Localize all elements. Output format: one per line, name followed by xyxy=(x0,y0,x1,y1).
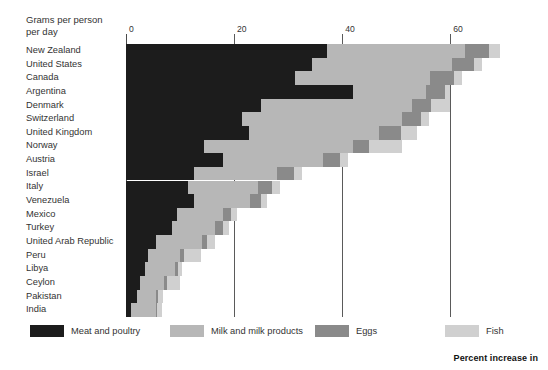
bar-segment xyxy=(194,167,278,181)
bar-row xyxy=(126,249,526,263)
bar-segment xyxy=(445,85,450,99)
bar-segment xyxy=(126,112,242,126)
legend-item-eggs[interactable]: Eggs xyxy=(315,325,377,337)
bar-segment xyxy=(261,194,266,208)
bar-row xyxy=(126,262,526,276)
bar-segment xyxy=(178,262,182,276)
category-label: United States xyxy=(26,58,124,72)
bar-segment xyxy=(137,290,156,304)
bar-segment xyxy=(340,153,348,167)
bar-segment xyxy=(140,276,164,290)
bar-segment xyxy=(126,262,145,276)
bar-segment xyxy=(452,58,474,72)
category-label: New Zealand xyxy=(26,44,124,58)
category-label: Austria xyxy=(26,153,124,167)
bar-row xyxy=(126,85,526,99)
bar-segment xyxy=(250,194,261,208)
bar-segment xyxy=(295,71,430,85)
bar-segment xyxy=(258,181,272,195)
legend-swatch-eggs xyxy=(315,325,349,337)
legend-label-meat: Meat and poultry xyxy=(71,326,140,336)
bar-segment xyxy=(126,276,140,290)
bar-segment xyxy=(401,126,417,140)
bar-segment xyxy=(126,44,327,58)
bar-row xyxy=(126,126,526,140)
category-label: Israel xyxy=(26,167,124,181)
legend-swatch-meat xyxy=(30,325,64,337)
legend-item-fish[interactable]: Fish xyxy=(445,325,504,337)
bar-segment xyxy=(126,167,194,181)
bar-row xyxy=(126,44,526,58)
category-label-column: New ZealandUnited StatesCanadaArgentinaD… xyxy=(26,44,124,317)
bar-segment xyxy=(272,181,280,195)
bar-segment xyxy=(369,140,401,154)
bar-segment xyxy=(223,208,231,222)
bar-segment xyxy=(261,99,412,113)
bar-row xyxy=(126,303,526,317)
bar-segment xyxy=(177,208,223,222)
legend-item-meat[interactable]: Meat and poultry xyxy=(30,325,140,337)
footnote-text: Percent increase in xyxy=(454,353,538,363)
legend-label-fish: Fish xyxy=(486,326,504,336)
bar-row xyxy=(126,235,526,249)
bar-row xyxy=(126,194,526,208)
bar-segment xyxy=(126,99,261,113)
category-label: Ceylon xyxy=(26,276,124,290)
x-tick-label-0: 0 xyxy=(129,24,134,34)
bar-segment xyxy=(126,194,194,208)
legend-item-milk[interactable]: Milk and milk products xyxy=(170,325,303,337)
bar-segment xyxy=(126,249,148,263)
bar-segment xyxy=(188,181,258,195)
bar-segment xyxy=(131,303,155,317)
chart-page: Grams per person per day New ZealandUnit… xyxy=(0,0,548,370)
category-label: Venezuela xyxy=(26,194,124,208)
bar-row xyxy=(126,58,526,72)
bar-segment xyxy=(172,221,215,235)
x-tick-label-20: 20 xyxy=(237,24,247,34)
bar-row xyxy=(126,167,526,181)
category-label: United Arab Republic xyxy=(26,235,124,249)
category-label: Switzerland xyxy=(26,112,124,126)
category-label: Canada xyxy=(26,71,124,85)
bar-segment xyxy=(323,153,339,167)
legend-swatch-fish xyxy=(445,325,479,337)
bar-segment xyxy=(126,235,156,249)
legend-label-milk: Milk and milk products xyxy=(211,326,303,336)
bar-segment xyxy=(184,249,200,263)
bar-segment xyxy=(430,71,454,85)
bar-segment xyxy=(223,221,228,235)
bar-segment xyxy=(379,126,401,140)
bar-segment xyxy=(156,235,202,249)
bar-row xyxy=(126,276,526,290)
bar-segment xyxy=(327,44,465,58)
category-label: Peru xyxy=(26,249,124,263)
bar-segment xyxy=(426,85,445,99)
bar-segment xyxy=(489,44,500,58)
bar-segment xyxy=(474,58,482,72)
bar-segment xyxy=(167,276,181,290)
bar-segment xyxy=(249,126,379,140)
category-label: Denmark xyxy=(26,99,124,113)
bar-row xyxy=(126,99,526,113)
chart-legend: Meat and poultryMilk and milk productsEg… xyxy=(30,325,530,341)
category-label: Libya xyxy=(26,262,124,276)
bar-segment xyxy=(353,85,426,99)
bar-segment xyxy=(207,235,215,249)
bar-segment xyxy=(126,181,188,195)
bar-segment xyxy=(277,167,293,181)
bar-row xyxy=(126,208,526,222)
bar-segment xyxy=(421,112,429,126)
bar-row xyxy=(126,221,526,235)
bar-segment xyxy=(294,167,302,181)
bar-row xyxy=(126,290,526,304)
bar-segment xyxy=(126,153,223,167)
bar-row xyxy=(126,153,526,167)
category-label: Norway xyxy=(26,139,124,153)
bar-segment xyxy=(126,126,249,140)
category-label: Pakistan xyxy=(26,290,124,304)
bar-segment xyxy=(242,112,401,126)
category-label: United Kingdom xyxy=(26,126,124,140)
bar-segment xyxy=(126,71,295,85)
x-tick-label-60: 60 xyxy=(453,24,463,34)
bar-segment xyxy=(412,99,431,113)
